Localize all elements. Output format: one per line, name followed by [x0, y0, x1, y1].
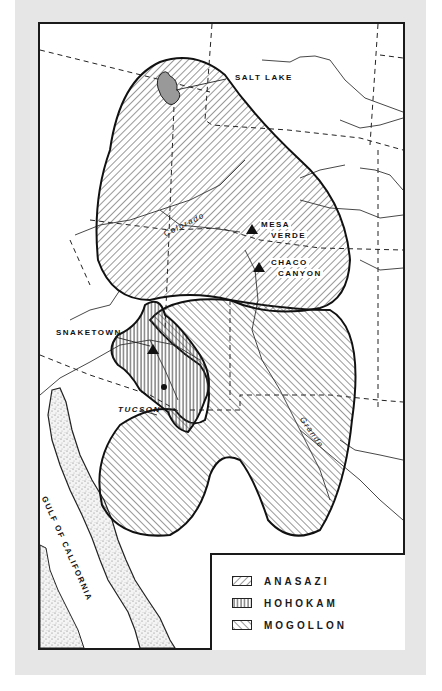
- mogollon-swatch-icon: [232, 620, 252, 630]
- label-salt-lake: SALT LAKE: [234, 73, 294, 82]
- label-snaketown: SNAKETOWN: [56, 328, 122, 337]
- legend-item-hohokam: HOHOKAM: [232, 597, 338, 609]
- label-chaco-canyon-2: CANYON: [277, 269, 323, 278]
- legend-item-anasazi: ANASAZI: [232, 575, 329, 587]
- legend: ANASAZI HOHOKAM MOGOLLON: [210, 553, 405, 650]
- tucson-marker: [161, 384, 167, 390]
- legend-label-anasazi: ANASAZI: [264, 576, 329, 587]
- label-chaco-canyon-1: CHACO: [270, 258, 309, 267]
- label-mesa-verde-1: MESA: [260, 220, 291, 229]
- hohokam-swatch-icon: [232, 598, 252, 608]
- label-mesa-verde-2: VERDE: [270, 231, 307, 240]
- label-tucson: TUCSON: [118, 405, 161, 414]
- legend-label-hohokam: HOHOKAM: [264, 598, 338, 609]
- legend-label-mogollon: MOGOLLON: [264, 620, 347, 631]
- legend-item-mogollon: MOGOLLON: [232, 619, 347, 631]
- anasazi-swatch-icon: [232, 576, 252, 586]
